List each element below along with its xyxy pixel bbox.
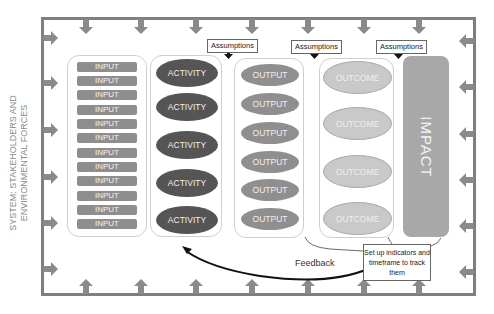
input-item: INPUT (77, 76, 137, 86)
assumptions-label: Assumptions (207, 39, 258, 53)
indicators-note: Set up indicators and timeframe to track… (363, 244, 431, 281)
input-item: INPUT (77, 162, 137, 172)
input-item: INPUT (77, 105, 137, 115)
output-item: OUTPUT (241, 93, 299, 115)
input-item: INPUT (77, 205, 137, 215)
activity-item: ACTIVITY (156, 131, 218, 159)
arrow-left-icon (459, 34, 474, 279)
assumptions-label: Assumptions (291, 40, 342, 54)
input-item: INPUT (77, 148, 137, 158)
input-item: INPUT (77, 133, 137, 143)
outcome-item: OUTCOME (323, 155, 392, 188)
outcome-item: OUTCOME (323, 61, 392, 94)
input-item: INPUT (77, 191, 137, 201)
input-item: INPUT (77, 90, 137, 100)
outcome-item: OUTCOME (323, 107, 392, 140)
outcome-item: OUTCOME (323, 202, 392, 235)
activity-item: ACTIVITY (156, 59, 218, 87)
impact-box: IMPACT (403, 56, 449, 237)
outputs-column: OUTPUT OUTPUT OUTPUT OUTPUT OUTPUT OUTPU… (234, 58, 304, 238)
output-item: OUTPUT (241, 179, 299, 201)
input-item: INPUT (77, 62, 137, 72)
output-item: OUTPUT (241, 151, 299, 173)
outcomes-column: OUTCOME OUTCOME OUTCOME OUTCOME (319, 58, 394, 238)
feedback-arrow (186, 251, 370, 280)
output-item: OUTPUT (241, 208, 299, 230)
feedback-label: Feedback (295, 258, 335, 268)
activity-item: ACTIVITY (156, 169, 218, 197)
input-item: INPUT (77, 219, 137, 229)
impact-label: IMPACT (418, 116, 435, 178)
inputs-column: INPUT INPUT INPUT INPUT INPUT INPUT INPU… (67, 55, 147, 237)
output-item: OUTPUT (241, 64, 299, 86)
arrow-down-icon (79, 19, 426, 34)
input-item: INPUT (77, 176, 137, 186)
input-item: INPUT (77, 119, 137, 129)
arrow-right-icon (43, 31, 58, 276)
assumptions-label: Assumptions (376, 40, 427, 54)
activity-item: ACTIVITY (156, 93, 218, 121)
output-item: OUTPUT (241, 122, 299, 144)
arrow-up-icon (79, 279, 426, 294)
activities-column: ACTIVITY ACTIVITY ACTIVITY ACTIVITY ACTI… (150, 55, 222, 237)
activity-item: ACTIVITY (156, 206, 218, 234)
